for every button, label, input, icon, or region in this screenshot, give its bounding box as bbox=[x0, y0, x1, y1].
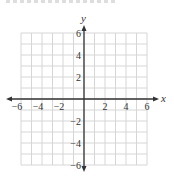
y-tick-label: 6 bbox=[76, 28, 81, 39]
x-tick-label: 4 bbox=[124, 101, 129, 112]
axes: x y bbox=[6, 12, 166, 172]
coordinate-plane: x y −6−4−2246 642−2−4−6 bbox=[0, 0, 174, 177]
y-tick-label: −4 bbox=[70, 138, 81, 149]
y-tick-label: 2 bbox=[76, 72, 81, 83]
y-tick-label: −2 bbox=[70, 116, 81, 127]
y-tick-label: 4 bbox=[76, 50, 81, 61]
x-tick-label: −6 bbox=[12, 101, 23, 112]
x-tick-label: −4 bbox=[33, 101, 44, 112]
y-tick-label: −6 bbox=[70, 160, 81, 171]
y-axis-label: y bbox=[80, 12, 86, 24]
x-tick-label: −2 bbox=[54, 101, 65, 112]
y-axis-up-arrow-icon bbox=[82, 25, 87, 31]
x-axis-label: x bbox=[160, 92, 166, 104]
x-axis-right-arrow-icon bbox=[153, 97, 159, 102]
x-tick-label: 6 bbox=[145, 101, 150, 112]
x-tick-label: 2 bbox=[103, 101, 108, 112]
y-axis-down-arrow-icon bbox=[82, 166, 87, 172]
